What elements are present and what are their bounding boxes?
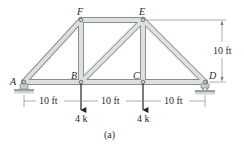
label-E: E bbox=[138, 6, 145, 17]
load-C-label: 4 k bbox=[137, 113, 150, 124]
label-A: A bbox=[9, 76, 17, 87]
truss-members bbox=[24, 20, 205, 82]
figure-caption: (a) bbox=[104, 129, 115, 141]
label-D: D bbox=[208, 70, 217, 81]
label-B: B bbox=[71, 70, 77, 81]
support-A bbox=[14, 84, 34, 94]
pin-B bbox=[79, 80, 83, 84]
support-D bbox=[195, 84, 215, 95]
pin-C bbox=[141, 80, 145, 84]
pin-F bbox=[79, 18, 83, 22]
truss-diagram: A B C D E F 10 ft 10 ft 10 ft 10 ft 4 k … bbox=[0, 0, 244, 146]
span-3-label: 10 ft bbox=[164, 95, 183, 106]
pin-E bbox=[141, 18, 145, 22]
height-dimension-label: 10 ft bbox=[213, 45, 232, 56]
load-B-label: 4 k bbox=[75, 113, 88, 124]
pin-D bbox=[203, 80, 207, 84]
span-1-label: 10 ft bbox=[39, 95, 58, 106]
pin-A bbox=[22, 80, 26, 84]
span-2-label: 10 ft bbox=[101, 95, 120, 106]
label-C: C bbox=[133, 70, 140, 81]
label-F: F bbox=[76, 6, 84, 17]
